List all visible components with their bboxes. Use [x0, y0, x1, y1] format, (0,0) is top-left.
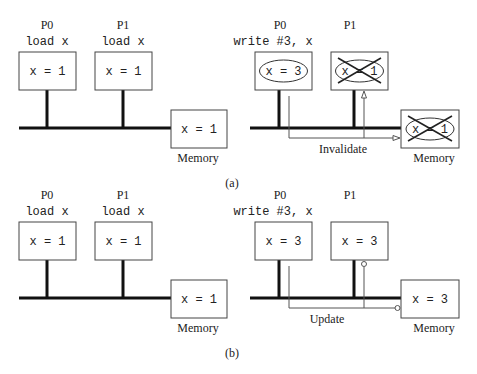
update-signal-line: [289, 266, 397, 308]
p1-op: load x: [101, 35, 144, 49]
p0-label: P0: [274, 188, 287, 202]
p0-cache-value: x = 1: [29, 235, 65, 249]
p1-cache-value: x = 1: [105, 65, 141, 79]
p1-label: P1: [117, 188, 130, 202]
connector-to-p1-icon: [362, 262, 367, 267]
panel-b-before: P0 load x P1 load x x = 1 x = 1 x = 1 Me…: [19, 188, 227, 335]
memory-label: Memory: [413, 321, 454, 335]
memory-value: x = 1: [181, 293, 217, 307]
p1-label: P1: [344, 188, 357, 202]
p0-label: P0: [41, 18, 54, 32]
p1-label: P1: [117, 18, 130, 32]
panel-a: P0 load x P1 load x x = 1 x = 1 x = 1 Me…: [19, 18, 459, 190]
invalidate-label: Invalidate: [319, 142, 367, 156]
p1-cache-value: x = 1: [105, 235, 141, 249]
panel-a-caption: (a): [225, 176, 238, 190]
invalidate-signal-line: [289, 96, 397, 138]
memory-label: Memory: [177, 151, 218, 165]
p0-cache-value: x = 3: [265, 235, 301, 249]
panel-a-after: P0 write #3, x P1 Invalidate x = 3 x = 1: [233, 18, 459, 165]
connector-to-memory-icon: [395, 306, 400, 311]
panel-b: P0 load x P1 load x x = 1 x = 1 x = 1 Me…: [19, 188, 459, 360]
p0-op: load x: [25, 35, 68, 49]
arrow-to-p1-icon: [362, 91, 367, 98]
p0-label: P0: [41, 188, 54, 202]
p0-cache-value: x = 3: [265, 65, 301, 79]
p0-label: P0: [274, 18, 287, 32]
cache-coherence-diagram: P0 load x P1 load x x = 1 x = 1 x = 1 Me…: [0, 0, 477, 374]
memory-label: Memory: [413, 151, 454, 165]
panel-a-before: P0 load x P1 load x x = 1 x = 1 x = 1 Me…: [19, 18, 227, 165]
p0-op: write #3, x: [233, 205, 312, 219]
update-label: Update: [310, 312, 345, 326]
p0-op: write #3, x: [233, 35, 312, 49]
p1-label: P1: [344, 18, 357, 32]
panel-b-caption: (b): [225, 346, 239, 360]
memory-label: Memory: [177, 321, 218, 335]
p0-cache-value: x = 1: [29, 65, 65, 79]
p0-op: load x: [25, 205, 68, 219]
p1-op: load x: [101, 205, 144, 219]
p1-cache-value: x = 3: [341, 235, 377, 249]
memory-value: x = 3: [412, 293, 448, 307]
panel-b-after: P0 write #3, x P1 Update x = 3 x = 3 x =…: [233, 188, 459, 335]
memory-value: x = 1: [181, 123, 217, 137]
arrow-to-memory-icon: [393, 136, 400, 141]
p1-cache-value: x = 1: [341, 65, 377, 79]
